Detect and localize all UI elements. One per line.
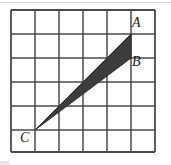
vertex-label-a: A: [132, 16, 141, 30]
vertex-label-c: C: [20, 131, 29, 145]
scan-artifact-bottom: [0, 161, 10, 165]
grid-lines: [11, 10, 155, 152]
vertex-label-b: B: [132, 55, 141, 69]
geometry-figure: A B C: [0, 0, 171, 165]
